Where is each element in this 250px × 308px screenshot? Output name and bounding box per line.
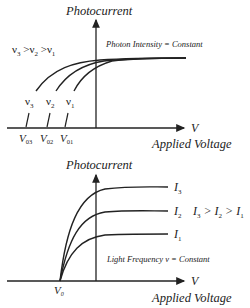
- chart-intensity: Photocurrent V Applied Voltage I3 I2 I1 …: [7, 158, 244, 305]
- label-i2: I2: [173, 204, 182, 220]
- label-nu3: ν3: [25, 95, 34, 110]
- top-x-axis-symbol: V: [191, 121, 200, 135]
- frequency-ordering: ν3 >ν2 >ν1: [12, 43, 56, 58]
- stop-v03: V03: [19, 132, 32, 145]
- top-y-axis-label: Photocurrent: [65, 4, 133, 18]
- svg-text:ν3 >ν2 >ν1: ν3 >ν2 >ν1: [12, 43, 56, 58]
- stop-v0: V0: [54, 284, 64, 297]
- curve-nu1: [74, 58, 186, 91]
- label-nu2: ν2: [46, 95, 55, 110]
- lead-v01: [65, 113, 68, 127]
- label-i3: I3: [173, 180, 182, 196]
- label-nu1: ν1: [66, 95, 75, 110]
- bottom-x-axis-symbol: V: [191, 274, 200, 288]
- bottom-condition-label: Light Frequency ν = Constant: [106, 254, 210, 264]
- intensity-ordering: I3 > I2 > I1: [192, 204, 244, 220]
- series-labels-top: ν3 ν2 ν1: [25, 95, 75, 110]
- curve-nu3: [36, 58, 186, 91]
- bottom-y-axis-label: Photocurrent: [65, 158, 133, 172]
- photoelectric-diagrams: Photocurrent V Applied Voltage Photon In…: [0, 0, 250, 308]
- bottom-x-axis-label: Applied Voltage: [151, 291, 232, 305]
- lead-v03: [26, 113, 29, 127]
- top-condition-label: Photon Intensity = Constant: [105, 39, 203, 49]
- curve-i2: [60, 211, 168, 281]
- chart-frequency: Photocurrent V Applied Voltage Photon In…: [7, 4, 232, 151]
- lead-v02: [47, 113, 50, 127]
- label-i1: I1: [173, 227, 182, 243]
- stop-v01: V01: [60, 132, 73, 145]
- top-x-axis-label: Applied Voltage: [151, 137, 232, 151]
- curve-nu2: [56, 58, 186, 91]
- stop-v02: V02: [40, 132, 53, 145]
